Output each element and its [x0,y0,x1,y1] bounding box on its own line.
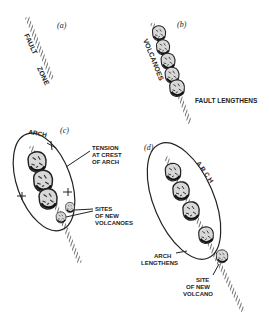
tension-label-line3: OF ARCH [92,159,119,165]
tension-label-line2: AT CREST [92,152,122,158]
site-leader-line [213,264,219,275]
tension-label-line1: TENSION [92,145,119,151]
new-volcano-site-icon [216,250,227,263]
arch-label-d: ARCH [195,160,216,186]
volcano-icon [157,40,170,55]
site-label-line1: SITE [196,277,209,283]
sites-label-line1: SITES [95,206,112,212]
panel-c: ARCH (c) TENSION AT CREST OF ARCH SITES … [1,125,133,264]
site-label-line2: OF NEW [186,284,210,290]
arch-outline-d [132,132,236,270]
volcano-icon [39,189,57,209]
volcano-icon [28,152,46,172]
volcano-icon [183,202,199,220]
panel-label-c: (c) [60,126,69,135]
volcano-fault-diagram: (a) FAULT ZONE (b) VOLCANOES FAULT LENGT… [0,0,269,319]
panel-b: (b) VOLCANOES FAULT LENGTHENS [142,20,258,124]
panel-label-a: (a) [57,21,67,30]
site-label-line3: VOLCANO [183,291,213,297]
panel-label-d: (d) [144,143,154,152]
volcano-icon [170,80,185,97]
volcano-icon [153,26,166,41]
sites-label-line2: OF NEW [95,213,119,219]
new-volcano-site-icon [56,212,66,223]
new-volcano-site-icon [66,202,75,212]
sites-leader-line [75,209,93,210]
panel-a: (a) FAULT ZONE [23,16,67,86]
volcano-icon [165,163,181,180]
sites-label-line3: VOLCANOES [95,220,133,226]
arch-lengthens-label-line2: LENGTHENS [141,260,178,266]
tension-leader-line [66,151,90,167]
panel-d: (d) ARCH ARCH LENGTHENS SITE OF NEW VOLC… [132,132,245,312]
arch-lengthens-label-line1: ARCH [154,253,171,259]
volcano-icon [161,53,175,69]
volcano-icon [173,182,189,200]
volcano-icon [199,227,214,244]
arch-label-c: ARCH [28,128,48,138]
panel-label-b: (b) [177,20,187,29]
fault-lengthens-label: FAULT LENGTHENS [195,97,258,104]
